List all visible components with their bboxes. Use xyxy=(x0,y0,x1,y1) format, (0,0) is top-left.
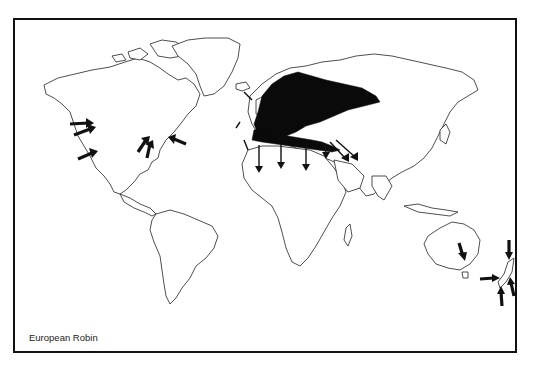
arctic-islands-3 xyxy=(112,54,126,62)
world-map xyxy=(0,0,535,379)
arctic-islands-2 xyxy=(128,48,148,60)
central-america xyxy=(120,194,156,216)
south-america xyxy=(150,210,218,304)
africa xyxy=(242,146,346,266)
indonesia xyxy=(404,204,458,216)
madagascar xyxy=(344,224,352,246)
iceland xyxy=(236,82,250,91)
map-caption: European Robin xyxy=(29,332,98,343)
tasmania xyxy=(462,272,468,278)
north-america xyxy=(44,58,200,194)
australia xyxy=(424,222,480,270)
